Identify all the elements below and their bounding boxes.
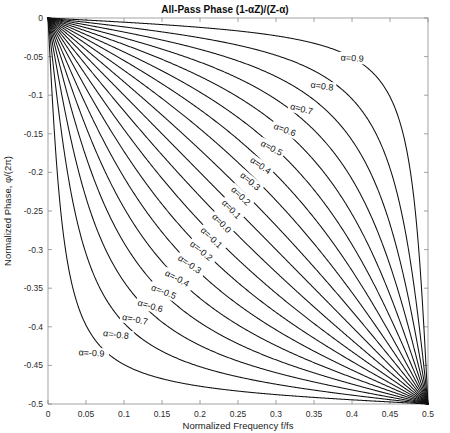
y-tick-label: -0.45 <box>24 360 44 370</box>
y-tick-label: 0 <box>38 13 43 23</box>
figure-container: All-Pass Phase (1-αZ)/(Z-α) 00.050.10.15… <box>0 0 450 433</box>
curve-label: α=0.7 <box>287 100 316 117</box>
curve-label-text: α=0.9 <box>340 52 364 63</box>
curve-label: α=-0.8 <box>100 327 133 342</box>
curve-label: α=-0.9 <box>76 347 109 360</box>
y-tick-label: -0.25 <box>24 206 44 216</box>
allpass-phase-chart: All-Pass Phase (1-αZ)/(Z-α) 00.050.10.15… <box>0 0 450 433</box>
y-tick-label: -0.05 <box>24 52 44 62</box>
y-tick-label: -0.5 <box>28 399 43 409</box>
curve-label-text: α=-0.5 <box>150 282 178 301</box>
curve-label-text: α=0.5 <box>259 138 284 158</box>
x-tick-label: 0.2 <box>194 409 206 419</box>
y-tick-label: -0.4 <box>28 322 43 332</box>
x-tick-label: 0.4 <box>346 409 358 419</box>
x-axis-label: Normalized Frequency f/fs <box>183 420 294 431</box>
curve-label-group: α=0.9α=0.8α=0.7α=0.6α=0.5α=0.4α=0.3α=0.2… <box>76 52 366 360</box>
x-tick-label: 0.1 <box>118 409 130 419</box>
x-tick-label: 0.05 <box>78 409 95 419</box>
x-tick-label: 0 <box>46 409 51 419</box>
x-tick-label: 0.35 <box>306 409 323 419</box>
y-tick-label: -0.35 <box>24 283 44 293</box>
curve-label: α=0.8 <box>308 79 337 94</box>
x-tick-label: 0.15 <box>154 409 171 419</box>
curve-label-text: α=-0.4 <box>163 268 191 289</box>
curve-label: α=-0.7 <box>119 311 153 328</box>
curve-label-text: α=0.6 <box>272 121 297 139</box>
y-tick-label: -0.2 <box>28 167 43 177</box>
y-tick-label: -0.15 <box>24 129 44 139</box>
x-tick-label: 0.25 <box>230 409 247 419</box>
curve-label: α=0.9 <box>338 52 366 65</box>
curve-label-text: α=0.8 <box>310 80 334 93</box>
x-tick-label: 0.3 <box>270 409 282 419</box>
curve-label-text: α=-0.9 <box>78 347 104 358</box>
x-tick-label: 0.5 <box>422 409 434 419</box>
y-tick-label: -0.3 <box>28 245 43 255</box>
curve-label: α=0.5 <box>257 137 286 160</box>
curve-label-text: α=0.4 <box>248 155 273 176</box>
x-tick-label: 0.45 <box>382 409 399 419</box>
y-tick-label: -0.1 <box>28 90 43 100</box>
curve-label-text: α=-0.8 <box>102 328 129 341</box>
curve-label: α=0.6 <box>270 120 300 140</box>
y-axis-label: Normalized Phase, φ/(2π) <box>2 156 13 266</box>
chart-title: All-Pass Phase (1-αZ)/(Z-α) <box>161 4 288 15</box>
